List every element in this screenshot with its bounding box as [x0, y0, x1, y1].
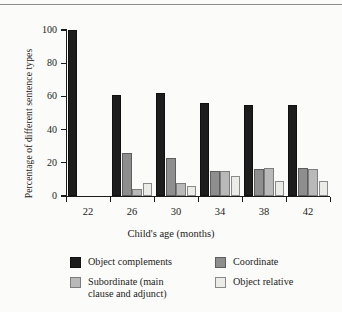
y-axis-tick-label: 100	[17, 25, 57, 35]
legend-label: Subordinate (main clause and adjunct)	[88, 276, 167, 299]
legend-item-coordinate[interactable]: Coordinate	[215, 256, 278, 268]
x-axis-tick	[286, 197, 287, 202]
plot-area	[66, 30, 330, 196]
bar	[166, 158, 176, 196]
x-axis-tick	[110, 197, 111, 202]
top-horizontal-rule	[0, 4, 342, 5]
legend-swatch-dark-gray	[215, 257, 226, 268]
bar	[244, 105, 254, 196]
legend-swatch-black	[70, 257, 81, 268]
bar	[231, 176, 241, 196]
legend-item-object-relative[interactable]: Object relative	[215, 276, 293, 288]
y-axis-tick-label: 40	[17, 125, 57, 135]
bar	[156, 93, 166, 196]
x-axis-tick	[154, 197, 155, 202]
legend-item-object-complements[interactable]: Object complements	[70, 256, 172, 268]
x-axis-tick	[330, 197, 331, 202]
x-axis-tick	[198, 197, 199, 202]
x-axis-tick-label: 34	[200, 206, 240, 217]
x-axis-tick	[242, 197, 243, 202]
bar	[68, 30, 78, 196]
bar	[319, 181, 329, 196]
y-axis-tick-label: 80	[17, 58, 57, 68]
bar	[187, 186, 197, 196]
bar	[112, 95, 122, 196]
x-axis-tick-label: 38	[244, 206, 284, 217]
legend-label: Object complements	[88, 256, 172, 268]
bar	[308, 169, 318, 196]
bar	[200, 103, 210, 196]
x-axis-tick	[66, 197, 67, 202]
bar	[122, 153, 132, 196]
legend-swatch-mid-gray	[70, 277, 81, 288]
bar-chart-figure: Percentage of different sentence types 0…	[0, 6, 342, 312]
bar	[210, 171, 220, 196]
y-axis-tick-label: 0	[17, 191, 57, 201]
x-axis-tick-label: 42	[288, 206, 328, 217]
bar	[288, 105, 298, 196]
x-axis-tick-label: 26	[112, 206, 152, 217]
bar	[275, 181, 285, 196]
x-axis-title: Child's age (months)	[0, 228, 342, 239]
bar	[176, 183, 186, 196]
legend-item-subordinate[interactable]: Subordinate (main clause and adjunct)	[70, 276, 167, 299]
chart-legend: Object complements Coordinate Subordinat…	[70, 256, 342, 312]
x-axis-tick-label: 22	[68, 206, 108, 217]
bar	[220, 171, 230, 196]
bar	[264, 168, 274, 196]
x-axis-tick-label: 30	[156, 206, 196, 217]
y-axis-tick-label: 60	[17, 91, 57, 101]
bar	[143, 183, 153, 196]
y-axis-tick-label: 20	[17, 158, 57, 168]
legend-swatch-light-gray	[215, 277, 226, 288]
bar	[298, 168, 308, 196]
bar	[254, 169, 264, 196]
legend-label: Coordinate	[233, 256, 278, 268]
legend-label: Object relative	[233, 276, 293, 288]
bar	[132, 189, 142, 196]
